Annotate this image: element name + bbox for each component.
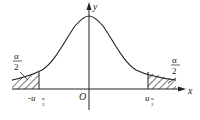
y-axis-label: y	[92, 1, 98, 12]
right-critical-subscript-den: 2	[151, 102, 154, 107]
diagram-svg: y x O α 2 α 2 -u α 2 u α 2	[0, 0, 200, 120]
left-critical-subscript-den: 2	[42, 102, 45, 107]
y-axis-arrow-icon	[87, 2, 92, 10]
left-area-numerator: α	[14, 51, 19, 61]
x-axis-arrow-icon	[178, 87, 186, 92]
right-critical-subscript-num: α	[151, 96, 154, 101]
normal-distribution-diagram: y x O α 2 α 2 -u α 2 u α 2	[0, 0, 200, 120]
left-area-denominator: 2	[14, 62, 19, 72]
bell-curve	[12, 16, 176, 80]
origin-label: O	[79, 91, 86, 102]
left-critical-subscript-num: α	[42, 96, 45, 101]
right-area-denominator: 2	[172, 66, 177, 76]
x-axis-label: x	[187, 85, 193, 96]
left-critical-value: -u	[28, 93, 36, 103]
right-area-numerator: α	[172, 55, 177, 65]
right-critical-value: u	[145, 93, 150, 103]
